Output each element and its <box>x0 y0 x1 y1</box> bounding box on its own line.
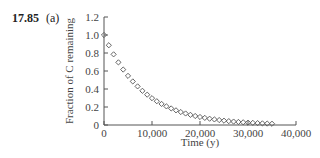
data-point-marker <box>202 115 207 120</box>
x-tick-label: 10,000 <box>137 127 168 139</box>
y-tick-label: 1.0 <box>85 29 99 41</box>
data-point-marker <box>226 119 231 124</box>
y-tick-label: 0.8 <box>85 47 99 59</box>
data-point-marker <box>193 113 198 118</box>
data-point-marker <box>130 79 135 84</box>
data-point-marker <box>125 73 130 78</box>
data-point-marker <box>217 117 222 122</box>
x-tick-label: 30,000 <box>233 127 264 139</box>
y-tick-label: 0 <box>94 119 100 131</box>
chart-axes <box>104 17 296 125</box>
data-point-marker <box>231 119 236 124</box>
data-point-marker <box>221 118 226 123</box>
decay-chart: 00.20.40.60.81.01.2 010,00020,00030,0004… <box>0 0 320 158</box>
data-point-marker <box>116 60 121 65</box>
data-point-marker <box>140 88 145 93</box>
x-tick-label: 40,000 <box>281 127 312 139</box>
data-points <box>101 32 274 126</box>
y-tick-label: 0.4 <box>85 83 99 95</box>
data-point-marker <box>121 67 126 72</box>
y-tick-label: 0.2 <box>85 101 99 113</box>
data-point-marker <box>212 117 217 122</box>
y-axis-label: Fraction of C remaining <box>63 18 75 125</box>
data-point-marker <box>241 120 246 125</box>
y-axis-ticks: 00.20.40.60.81.01.2 <box>85 11 108 131</box>
data-point-marker <box>188 112 193 117</box>
data-point-marker <box>183 111 188 116</box>
data-point-marker <box>154 99 159 104</box>
data-point-marker <box>236 119 241 124</box>
data-point-marker <box>106 43 111 48</box>
y-tick-label: 0.6 <box>85 65 99 77</box>
data-point-marker <box>149 96 154 101</box>
data-point-marker <box>145 92 150 97</box>
data-point-marker <box>159 101 164 106</box>
x-tick-label: 0 <box>101 127 107 139</box>
y-tick-label: 1.2 <box>85 11 99 23</box>
data-point-marker <box>207 116 212 121</box>
data-point-marker <box>197 114 202 119</box>
data-point-marker <box>111 52 116 57</box>
data-point-marker <box>135 84 140 89</box>
x-axis-label: Time (y) <box>181 136 220 149</box>
